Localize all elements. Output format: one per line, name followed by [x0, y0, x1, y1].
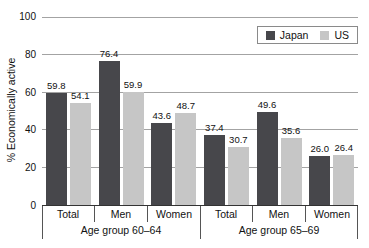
bar-japan-6: 26.0 — [309, 156, 330, 205]
x-axis: TotalMenWomenTotalMenWomen Age group 60–… — [42, 206, 358, 240]
y-tick-label-20: 20 — [0, 162, 36, 173]
bar-pair-4: 37.430.7 — [200, 17, 253, 205]
bar-us-3: 48.7 — [175, 113, 196, 205]
bar-value-label: 26.4 — [334, 142, 353, 153]
plot-area: 59.854.176.459.943.648.737.430.749.635.6… — [42, 17, 358, 206]
category-label-1: Total — [42, 206, 94, 222]
y-tick-label-60: 60 — [0, 87, 36, 98]
legend-item-us: US — [320, 29, 349, 41]
bar-japan-2: 76.4 — [99, 61, 120, 205]
age-group-label-1: Age group 60–64 — [42, 222, 200, 240]
category-label-6: Women — [305, 206, 358, 222]
bar-groups: 59.854.176.459.943.648.737.430.749.635.6… — [42, 17, 358, 205]
bar-us-2: 59.9 — [123, 92, 144, 205]
legend-swatch-japan — [266, 31, 275, 40]
age-group-label-2: Age group 65–69 — [200, 222, 358, 240]
bar-value-label: 37.4 — [205, 122, 224, 133]
bar-japan-4: 37.4 — [204, 135, 225, 205]
y-tick-label-80: 80 — [0, 49, 36, 60]
bar-japan-5: 49.6 — [257, 112, 278, 205]
legend-label-us: US — [334, 29, 349, 41]
bar-value-label: 49.6 — [258, 99, 277, 110]
bar-value-label: 76.4 — [100, 48, 119, 59]
legend: JapanUS — [257, 26, 358, 44]
y-tick-label-40: 40 — [0, 124, 36, 135]
legend-label-japan: Japan — [280, 29, 309, 41]
axis-bracket-line — [200, 206, 201, 239]
bar-value-label: 30.7 — [229, 134, 248, 145]
legend-swatch-us — [320, 31, 329, 40]
bar-value-label: 35.6 — [282, 125, 301, 136]
bar-pair-3: 43.648.7 — [147, 17, 200, 205]
bar-value-label: 59.8 — [47, 80, 66, 91]
bar-us-5: 35.6 — [281, 138, 302, 205]
y-axis-title: % Economically active — [5, 16, 19, 205]
bar-value-label: 43.6 — [152, 110, 171, 121]
bar-japan-3: 43.6 — [151, 123, 172, 205]
category-label-5: Men — [252, 206, 305, 222]
bar-us-1: 54.1 — [70, 103, 91, 205]
legend-item-japan: Japan — [266, 29, 309, 41]
bar-value-label: 59.9 — [124, 79, 143, 90]
axis-bracket-line — [42, 206, 43, 239]
y-tick-label-100: 100 — [0, 11, 36, 22]
y-tick-label-0: 0 — [0, 200, 36, 211]
bar-pair-5: 49.635.6 — [253, 17, 306, 205]
bar-pair-1: 59.854.1 — [42, 17, 95, 205]
bar-value-label: 54.1 — [71, 90, 90, 101]
bar-japan-1: 59.8 — [46, 93, 67, 205]
bar-us-6: 26.4 — [333, 155, 354, 205]
category-label-4: Total — [200, 206, 252, 222]
category-label-2: Men — [94, 206, 147, 222]
bar-us-4: 30.7 — [228, 147, 249, 205]
bar-pair-6: 26.026.4 — [305, 17, 358, 205]
bar-pair-2: 76.459.9 — [95, 17, 148, 205]
category-label-3: Women — [147, 206, 200, 222]
bar-chart-figure: % Economically active 020406080100 59.85… — [0, 0, 369, 248]
axis-bracket-line — [357, 206, 358, 239]
bar-value-label: 48.7 — [176, 100, 195, 111]
bar-value-label: 26.0 — [310, 143, 329, 154]
